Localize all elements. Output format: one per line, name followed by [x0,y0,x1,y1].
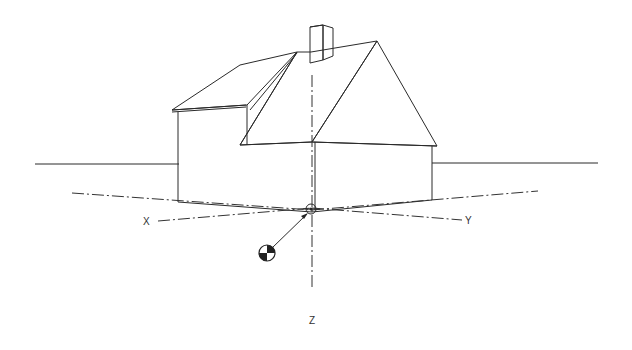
main-roof [240,41,437,146]
main-walls [178,142,432,212]
left-wing [172,52,297,202]
center-of-gravity-icon [259,245,275,261]
x-axis-back [72,193,312,210]
x-axis-front [158,208,312,221]
house-axis-diagram [0,0,632,350]
cg-leader-arrow [272,213,308,248]
y-axis-front [312,208,462,220]
x-axis-label: X [143,217,150,227]
y-axis-label: Y [465,216,472,226]
chimney [310,25,333,63]
z-axis-label: Z [309,316,315,326]
